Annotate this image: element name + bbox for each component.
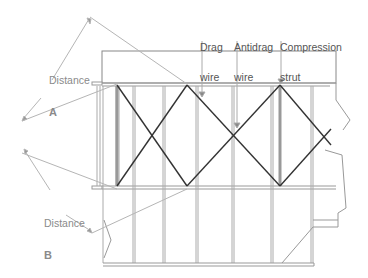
distance-a-line2: A (49, 107, 90, 117)
rear-spar (92, 186, 336, 189)
compression-strut-line2: strut (280, 72, 342, 82)
compression-strut-label: Compression strut (280, 22, 342, 92)
antidrag-wire-line1: Antidrag (234, 42, 273, 52)
drag-wire-line1: Drag (200, 42, 223, 52)
distance-b-line2: B (44, 250, 85, 260)
antidrag-wire-label: Antidrag wire (234, 22, 273, 92)
antidrag-wire-line2: wire (234, 72, 273, 82)
drag-wire-label: Drag wire (200, 22, 223, 92)
bracing-wires (117, 85, 331, 186)
distance-b-label: Distance B (44, 198, 85, 270)
distance-b-line1: Distance (44, 218, 85, 228)
distance-a-line1: Distance (49, 75, 90, 85)
compression-strut-line1: Compression (280, 42, 342, 52)
distance-a-label: Distance A (49, 55, 90, 127)
wing-tip-edge (313, 83, 350, 227)
drag-wire-line2: wire (200, 72, 223, 82)
